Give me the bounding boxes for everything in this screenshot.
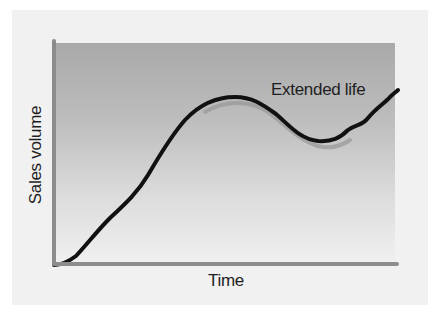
y-axis-label: Sales volume [26, 106, 46, 204]
x-axis-label: Time [208, 271, 244, 291]
x-axis [52, 262, 399, 266]
extended-life-annotation: Extended life [271, 80, 365, 100]
y-axis [52, 39, 56, 266]
curve-line [54, 90, 398, 265]
sales-curve [0, 0, 440, 315]
